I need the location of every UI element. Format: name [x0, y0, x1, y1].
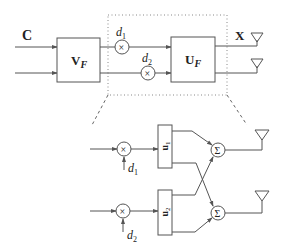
d1-label: d1: [128, 161, 138, 177]
wire: [172, 131, 212, 145]
zoom-guide: [92, 95, 108, 125]
antenna-icon: [255, 130, 269, 140]
d1-label-top: d1: [116, 25, 126, 41]
wire: [225, 139, 262, 150]
d2-label-top: d2: [142, 51, 152, 67]
output-label-x: X: [235, 28, 245, 43]
wire: [215, 66, 257, 73]
multiplier-symbol: ×: [119, 42, 125, 53]
sum-symbol: Σ: [215, 145, 221, 156]
multiplier-symbol: ×: [121, 144, 127, 155]
mimo-precoding-diagram: C VF × d1 × d2 UF X × d1 u1 × d2 u2: [0, 0, 284, 252]
multiplier-symbol: ×: [120, 206, 126, 217]
input-label-c: C: [22, 28, 32, 43]
zoom-guide: [227, 95, 247, 125]
wire: [172, 218, 212, 232]
wire: [225, 201, 262, 213]
multiplier-symbol: ×: [145, 68, 151, 79]
antenna-icon: [255, 191, 269, 201]
d2-label: d2: [127, 228, 137, 244]
sum-symbol: Σ: [215, 208, 221, 219]
